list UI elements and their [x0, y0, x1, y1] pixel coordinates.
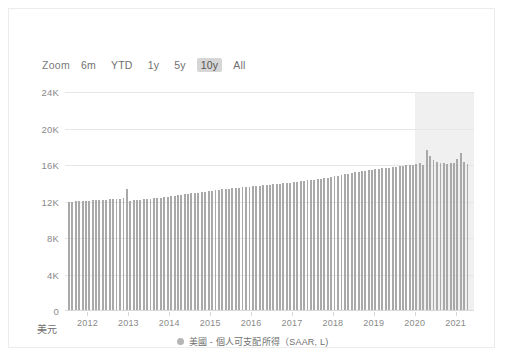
bar — [453, 163, 455, 311]
bar — [92, 200, 94, 311]
bar — [190, 193, 192, 311]
range-button-1y[interactable]: 1y — [144, 58, 164, 73]
x-axis: 2012201320142015201620172018201920202021 — [65, 312, 474, 330]
x-tick-label-2020: 2020 — [404, 318, 425, 328]
range-button-all[interactable]: All — [229, 58, 249, 73]
bar — [136, 200, 138, 311]
bar — [252, 186, 254, 311]
x-tick-label-2018: 2018 — [322, 318, 343, 328]
bar — [82, 201, 84, 311]
bar — [235, 188, 237, 311]
bar — [109, 199, 111, 311]
bar — [334, 176, 336, 311]
bar — [116, 199, 118, 311]
bar — [351, 173, 353, 311]
x-tick-mark-2021 — [456, 312, 457, 316]
bar — [160, 198, 162, 312]
bar — [249, 187, 251, 311]
legend-marker-icon — [177, 338, 184, 345]
bar — [415, 164, 417, 311]
range-button-ytd[interactable]: YTD — [107, 58, 137, 73]
bar — [347, 174, 349, 312]
bar — [218, 190, 220, 311]
bar — [289, 183, 291, 311]
x-tick-mark-2013 — [128, 312, 129, 316]
bar — [456, 159, 458, 311]
bar — [167, 197, 169, 311]
bar — [126, 189, 128, 311]
bar — [187, 194, 189, 311]
bar — [269, 185, 271, 311]
y-tick-label-4K: 4K — [13, 269, 59, 280]
bar — [279, 184, 281, 311]
bar — [119, 199, 121, 311]
bar — [85, 201, 87, 311]
bar — [88, 201, 90, 311]
bar — [429, 156, 431, 311]
x-tick-mark-2020 — [415, 312, 416, 316]
bar — [303, 181, 305, 311]
bar — [194, 193, 196, 311]
bar — [364, 171, 366, 311]
bar — [276, 184, 278, 311]
range-button-6m[interactable]: 6m — [77, 58, 100, 73]
x-tick-label-2021: 2021 — [445, 318, 466, 328]
bar — [133, 200, 135, 311]
bar — [75, 201, 77, 311]
bar — [313, 180, 315, 311]
bar — [395, 167, 397, 311]
bar — [368, 170, 370, 311]
bar — [272, 184, 274, 311]
bar — [262, 185, 264, 311]
bar — [296, 182, 298, 311]
bar — [317, 179, 319, 311]
x-tick-mark-2015 — [210, 312, 211, 316]
bar — [197, 193, 199, 311]
bar — [381, 168, 383, 311]
bar — [361, 171, 363, 311]
x-tick-label-2017: 2017 — [282, 318, 303, 328]
bar — [358, 172, 360, 311]
bar — [399, 166, 401, 311]
bar — [327, 178, 329, 311]
legend-label: 美國 - 個人可支配所得（SAAR, L) — [189, 335, 329, 348]
bar — [463, 162, 465, 311]
bar — [433, 160, 435, 311]
x-tick-mark-2016 — [251, 312, 252, 316]
bar — [208, 191, 210, 311]
plot-area — [65, 92, 474, 311]
bar — [71, 202, 73, 311]
x-tick-mark-2012 — [87, 312, 88, 316]
bar — [184, 194, 186, 311]
bar — [143, 199, 145, 311]
bar — [300, 181, 302, 311]
bar — [467, 164, 469, 311]
y-tick-label-0: 0 — [13, 306, 59, 317]
bar — [310, 180, 312, 311]
bar — [443, 163, 445, 311]
bar — [150, 199, 152, 311]
bar — [242, 187, 244, 311]
range-button-10y[interactable]: 10y — [197, 58, 223, 73]
bar — [112, 199, 114, 311]
bar — [402, 166, 404, 311]
bar — [238, 188, 240, 311]
axis-unit-label: 美元 — [37, 321, 58, 336]
bar — [174, 196, 176, 311]
x-tick-label-2013: 2013 — [118, 318, 139, 328]
range-button-5y[interactable]: 5y — [170, 58, 190, 73]
y-tick-label-20K: 20K — [13, 123, 59, 134]
bar — [228, 189, 230, 311]
bar — [405, 165, 407, 311]
bar — [123, 198, 125, 311]
bar — [419, 163, 421, 311]
bar — [98, 200, 100, 311]
x-tick-mark-2014 — [169, 312, 170, 316]
bar — [105, 200, 107, 311]
bar — [385, 168, 387, 311]
bar — [177, 195, 179, 311]
bar — [78, 201, 80, 311]
bar — [440, 163, 442, 311]
bar — [163, 197, 165, 311]
bar — [245, 187, 247, 311]
